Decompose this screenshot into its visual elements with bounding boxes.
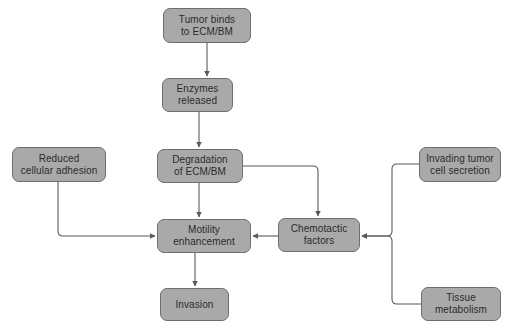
node-invading-tumor-cell-secretion: Invading tumor cell secretion <box>419 147 501 182</box>
node-tissue-metabolism-label: Tissue metabolism <box>435 292 487 316</box>
node-degradation-ecm-bm: Degradation of ECM/BM <box>157 149 243 183</box>
edge-reduced-adhesion-to-motility <box>58 182 155 236</box>
node-chemotactic-factors-label: Chemotactic factors <box>291 223 348 247</box>
node-reduced-cellular-adhesion: Reduced cellular adhesion <box>12 147 106 182</box>
node-invading-tumor-cell-secretion-label: Invading tumor cell secretion <box>426 153 494 177</box>
edge-invading-tumor-to-chemotactic <box>362 164 419 236</box>
node-tumor-binds-label: Tumor binds to ECM/BM <box>179 14 235 38</box>
node-motility-enhancement-label: Motility enhancement <box>173 224 235 248</box>
node-reduced-cellular-adhesion-label: Reduced cellular adhesion <box>21 153 98 177</box>
node-tissue-metabolism: Tissue metabolism <box>421 287 501 321</box>
node-chemotactic-factors: Chemotactic factors <box>278 218 360 252</box>
flowchart-canvas: Tumor binds to ECM/BM Enzymes released D… <box>0 0 508 331</box>
node-tumor-binds: Tumor binds to ECM/BM <box>163 8 251 43</box>
node-enzymes-released: Enzymes released <box>162 78 233 112</box>
node-enzymes-released-label: Enzymes released <box>177 83 219 107</box>
edge-degradation-to-chemotactic <box>243 166 318 216</box>
node-invasion-label: Invasion <box>175 299 213 311</box>
node-degradation-ecm-bm-label: Degradation of ECM/BM <box>172 154 228 178</box>
edge-tissue-metabolism-to-chemotactic <box>362 236 421 304</box>
node-invasion: Invasion <box>160 288 229 321</box>
node-motility-enhancement: Motility enhancement <box>157 219 251 253</box>
